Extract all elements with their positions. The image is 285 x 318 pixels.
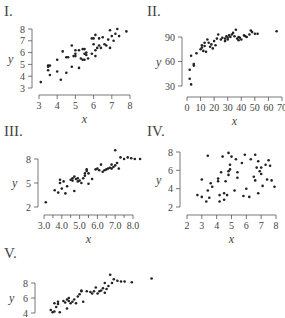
y-tick-label: 4 [168, 183, 173, 194]
panel-2: II.306090y010203040506070x [147, 3, 285, 128]
data-point [257, 192, 260, 195]
data-point [261, 185, 264, 188]
data-point [245, 36, 248, 39]
data-point [205, 50, 208, 53]
x-tick-label: 50 [250, 102, 260, 113]
x-tick-label: 3.0 [38, 220, 51, 231]
x-tick-label: 6.0 [91, 220, 104, 231]
x-tick-label: 2 [185, 220, 190, 231]
data-point [240, 38, 243, 41]
data-point [68, 297, 71, 300]
data-point [236, 171, 239, 174]
panel-label: III. [4, 123, 23, 139]
data-point [224, 180, 227, 183]
data-point [71, 179, 74, 182]
data-point [251, 31, 254, 34]
y-tick-label: 8 [26, 154, 31, 165]
data-point [74, 49, 77, 52]
data-point [68, 300, 71, 303]
data-point [226, 38, 229, 41]
x-axis-label: x [85, 232, 92, 246]
data-point [125, 30, 128, 33]
y-axis-label: y [8, 291, 15, 305]
data-point [241, 162, 244, 165]
x-tick-label: 4.0 [56, 220, 69, 231]
data-point [87, 57, 90, 60]
data-point [98, 44, 101, 47]
data-point [92, 43, 95, 46]
data-point [82, 301, 85, 304]
data-point [116, 280, 119, 283]
data-point [195, 52, 198, 55]
data-point [264, 164, 267, 167]
data-point [71, 44, 74, 47]
data-point [110, 163, 113, 166]
scatterplot-grid: I.345678y345678x II.306090y0102030405060… [0, 0, 285, 318]
data-point [217, 180, 220, 183]
y-tick-label: 6 [23, 293, 28, 304]
data-point [216, 37, 219, 40]
data-point [190, 55, 193, 58]
data-point [223, 198, 226, 201]
data-point [221, 155, 224, 158]
data-point [83, 58, 86, 61]
data-point [101, 36, 104, 39]
y-axis-label: y [7, 52, 14, 66]
x-tick-label: 40 [236, 102, 246, 113]
data-point [203, 41, 206, 44]
data-point [260, 166, 263, 169]
data-point [217, 33, 220, 36]
y-tick-label: 3 [20, 83, 25, 94]
data-point [224, 40, 227, 43]
data-point [53, 302, 56, 305]
data-point [116, 28, 119, 31]
x-tick-label: 8 [274, 220, 279, 231]
data-point [118, 35, 121, 38]
data-point [94, 49, 97, 52]
data-point [80, 182, 83, 185]
data-point [254, 154, 257, 157]
data-point [61, 50, 64, 53]
data-point [98, 37, 101, 40]
x-tick-label: 6 [244, 220, 249, 231]
y-tick-label: 5 [20, 59, 25, 70]
data-point [109, 274, 112, 277]
data-point [66, 185, 69, 188]
panel-3: III.258y3.04.05.06.07.08.0x [4, 123, 141, 246]
data-point [40, 81, 43, 84]
data-point [196, 194, 199, 197]
x-tick-label: 7.0 [109, 220, 122, 231]
data-point [93, 290, 96, 293]
data-point [82, 177, 85, 180]
x-tick-label: 10 [196, 102, 206, 113]
data-point [254, 179, 257, 182]
data-point [64, 192, 67, 195]
data-point [75, 302, 78, 305]
data-point [207, 41, 210, 44]
data-point [59, 311, 62, 314]
data-point [78, 293, 81, 296]
panel-1: I.345678y345678x [4, 3, 133, 126]
data-point [98, 169, 101, 172]
data-point [64, 301, 67, 304]
data-point [78, 179, 81, 182]
data-point [73, 298, 76, 301]
data-point [255, 166, 258, 169]
data-point [232, 32, 235, 35]
data-point [188, 68, 191, 71]
data-point [65, 71, 68, 74]
data-point [74, 55, 77, 58]
data-point [77, 295, 80, 298]
data-point [57, 303, 60, 306]
data-point [91, 292, 94, 295]
x-tick-label: 20 [209, 102, 219, 113]
data-point [258, 170, 261, 173]
data-point [74, 53, 77, 56]
data-point [193, 64, 196, 67]
data-point [95, 286, 98, 289]
y-tick-label: 30 [165, 81, 175, 92]
x-tick-label: 7 [109, 100, 114, 111]
data-point [257, 160, 260, 163]
x-axis-label: x [81, 112, 88, 126]
data-point [66, 307, 69, 310]
